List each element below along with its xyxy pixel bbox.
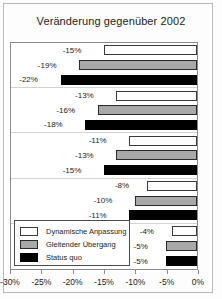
bar — [85, 120, 197, 130]
x-axis-tick-label: -25% — [31, 277, 51, 287]
bar-row: -13% — [11, 88, 197, 103]
legend-item[interactable]: Dynamische Anpassung — [20, 225, 125, 237]
legend-item[interactable]: Status quo — [20, 251, 125, 263]
category-group: -15%-19%-22% — [11, 43, 197, 88]
bar-row: -22% — [11, 72, 197, 87]
bar — [98, 105, 197, 115]
bar-value-label: -18% — [44, 120, 65, 129]
legend-swatch — [20, 253, 38, 262]
x-axis-tick-label: -20% — [63, 277, 83, 287]
legend-label: Gleitender Übergang — [46, 240, 116, 249]
legend-label: Dynamische Anpassung — [46, 227, 126, 236]
x-axis-tick-label: -30% — [0, 277, 20, 287]
bar-value-label: -5% — [134, 242, 150, 251]
bar-value-label: -11% — [89, 136, 109, 145]
bar — [129, 210, 197, 220]
category-group: -8%-10%-11% — [11, 179, 197, 224]
category-group: -13%-16%-18% — [11, 88, 197, 133]
x-axis-tick-label: -15% — [94, 277, 114, 287]
bar-value-label: -15% — [63, 46, 84, 55]
bar — [166, 241, 197, 251]
bar-value-label: -13% — [75, 151, 96, 160]
legend-swatch — [20, 227, 38, 236]
bar — [104, 45, 197, 55]
x-axis-tick-label: -10% — [125, 277, 145, 287]
bar-value-label: -16% — [56, 106, 77, 115]
bar — [79, 60, 197, 70]
bar-value-label: -10% — [94, 196, 115, 205]
legend-swatch — [20, 240, 38, 249]
bar — [166, 256, 197, 266]
chart-legend: Dynamische AnpassungGleitender ÜbergangS… — [14, 220, 130, 266]
bar-value-label: -19% — [38, 61, 59, 70]
x-axis-tick — [41, 270, 42, 274]
bar-value-label: -11% — [89, 211, 109, 220]
bar — [116, 150, 197, 160]
bar-row: -16% — [11, 103, 197, 118]
x-axis-tick — [198, 270, 199, 274]
bar-value-label: -8% — [115, 181, 131, 190]
bar — [104, 165, 197, 175]
bar-value-label: -5% — [134, 257, 150, 266]
bar — [147, 181, 197, 191]
bar-row: -10% — [11, 193, 197, 208]
x-axis-tick — [73, 270, 74, 274]
x-axis-tick — [10, 270, 11, 274]
chart-title: Veränderung gegenüber 2002 — [0, 15, 222, 27]
chart-figure: Veränderung gegenüber 2002 -15%-19%-22%-… — [0, 0, 222, 299]
bar — [129, 136, 197, 146]
bar-value-label: -22% — [19, 75, 40, 84]
legend-label: Status quo — [46, 253, 82, 262]
bar-row: -11% — [11, 133, 197, 148]
bar-row: -19% — [11, 58, 197, 73]
bar-row: -15% — [11, 43, 197, 58]
bar-row: -15% — [11, 163, 197, 178]
x-axis-tick-label: -5% — [159, 277, 174, 287]
bar-row: -8% — [11, 179, 197, 194]
x-axis-tick — [135, 270, 136, 274]
x-axis-labels: -30%-25%-20%-15%-10%-5%0% — [0, 277, 222, 291]
x-axis-tick — [104, 270, 105, 274]
bar-value-label: -4% — [140, 227, 156, 236]
x-axis-ticks — [10, 270, 198, 275]
bar-value-label: -15% — [63, 166, 84, 175]
bar-row: -13% — [11, 148, 197, 163]
bar — [61, 75, 197, 85]
bar-row: -18% — [11, 118, 197, 133]
bar — [172, 226, 197, 236]
bar — [135, 196, 197, 206]
x-axis-tick — [167, 270, 168, 274]
bar-value-label: -13% — [75, 91, 96, 100]
legend-item[interactable]: Gleitender Übergang — [20, 238, 125, 250]
bar — [116, 91, 197, 101]
category-group: -11%-13%-15% — [11, 133, 197, 178]
x-axis-tick-label: 0% — [192, 277, 204, 287]
